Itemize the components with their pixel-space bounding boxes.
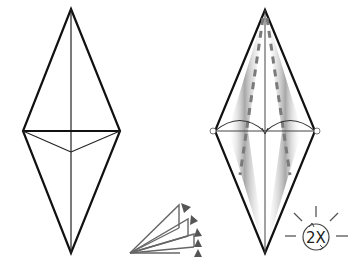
fan-fold-icon (130, 203, 202, 257)
origami-diagram: 2X (0, 0, 359, 278)
step-before-diamond (23, 9, 120, 253)
repeat-2x-icon: 2X (285, 206, 348, 250)
repeat-count-label: 2X (306, 229, 326, 247)
step-after-diamond (210, 10, 320, 253)
